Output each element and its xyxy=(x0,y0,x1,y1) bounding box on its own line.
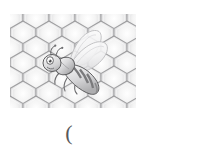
bee-svg xyxy=(10,14,136,108)
caption-text: ( xyxy=(57,120,81,146)
page-root: ( xyxy=(0,0,201,151)
bee-figure xyxy=(10,14,136,108)
honeycomb-illustration xyxy=(10,14,136,108)
bee-head xyxy=(43,55,61,72)
